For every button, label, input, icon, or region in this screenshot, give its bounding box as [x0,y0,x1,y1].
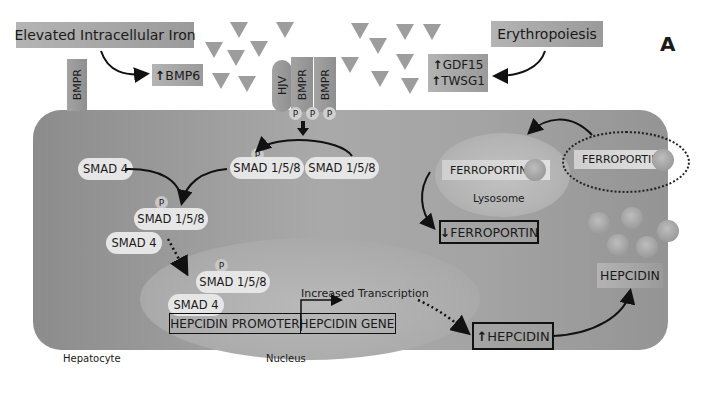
ligand-triangle-icon [230,22,248,38]
ferroportin-label: FERROPORTIN [450,225,538,240]
iron-ball-icon [524,159,546,181]
elevated-iron-box: Elevated Intracellular Iron [16,22,194,48]
hepcidin-molecule-icon [621,207,643,229]
elevated-iron-label: Elevated Intracellular Iron [14,27,195,43]
ligand-triangle-icon [423,24,441,40]
smad158-phosphorylated: SMAD 1/5/8 [230,157,304,179]
ligand-triangle-icon [238,76,256,92]
hepcidin-molecule-icon [657,220,679,242]
up-arrow-icon: ↑ [155,68,165,83]
hepcidin-gene: HEPCIDIN GENE [299,313,396,334]
bmpr-receptor-left: BMPR [67,59,87,111]
membrane-ferroportin: FERROPORTIN [574,150,664,169]
bmp6-box: ↑BMP6 [152,64,203,86]
up-arrow-icon: ↑ [433,58,443,72]
hjv-coreceptor: HJV [272,60,292,112]
ligand-triangle-icon [371,71,389,87]
decreased-ferroportin-box: ↓FERROPORTIN [439,220,539,244]
bmpr-receptor-1: BMPR [291,57,313,112]
ferroportin-label: FERROPORTIN [582,153,660,166]
erythropoiesis-label: Erythropoiesis [497,26,597,42]
smad158-complex: SMAD 1/5/8 [134,208,208,230]
arrow-iron-to-bmp6 [101,51,146,74]
bmp6-label: BMP6 [165,68,200,83]
hepcidin-promoter: HEPCIDIN PROMOTER [169,313,301,334]
hjv-label: HJV [276,76,289,95]
gdf15-twsg1-box: ↑GDF15 ↑TWSG1 [428,54,488,92]
ligand-triangle-icon [369,38,387,54]
up-arrow-icon: ↑ [431,74,441,88]
bmpr-label: BMPR [319,69,332,100]
ligand-triangle-icon [401,78,419,94]
phosphate-icon: P [289,107,302,120]
smad4-complex: SMAD 4 [106,232,162,254]
hepcidin-molecule-icon [588,212,610,234]
hepcidin-molecule-icon [636,236,658,258]
phosphate-icon: P [323,107,336,120]
ferroportin-label: FERROPORTIN [450,164,528,177]
ligand-triangle-icon [396,24,414,40]
iron-ball-icon [652,149,674,171]
arrow-erythropoiesis-to-gdf15 [496,51,545,76]
lysosome-label: Lysosome [473,192,525,204]
ligand-triangle-icon [227,50,245,66]
bmpr-label: BMPR [71,69,84,100]
hepcidin-molecule-icon [607,234,629,256]
phosphate-icon: P [306,107,319,120]
secreted-hepcidin-box: HEPCIDIN [597,263,663,288]
ligand-triangle-icon [276,22,294,38]
ligand-triangle-icon [351,23,369,39]
ligand-triangle-icon [341,57,359,73]
panel-label: A [660,32,675,56]
bmpr-label: BMPR [296,69,309,100]
smad158-unphosphorylated: SMAD 1/5/8 [305,157,379,179]
hepatocyte-label: Hepatocyte [63,353,121,364]
ligand-triangle-icon [396,54,414,70]
up-arrow-icon: ↑ [476,329,487,344]
increased-hepcidin-box: ↑HEPCIDIN [472,322,554,350]
hepcidin-label: HEPCIDIN [487,329,549,344]
down-arrow-icon: ↓ [440,225,450,240]
nucleus-label: Nucleus [266,353,306,364]
smad158-nuclear: SMAD 1/5/8 [196,271,270,293]
twsg1-label: TWSG1 [441,74,485,88]
hepcidin-label: HEPCIDIN [600,268,660,283]
erythropoiesis-box: Erythropoiesis [491,21,603,47]
ligand-triangle-icon [250,41,268,57]
increased-transcription-label: Increased Transcription [301,287,429,300]
ligand-triangle-icon [212,73,230,89]
bmpr-receptor-2: BMPR [314,57,336,112]
smad4-top: SMAD 4 [78,158,133,180]
gdf15-label: GDF15 [443,58,484,72]
ligand-triangle-icon [205,42,223,58]
